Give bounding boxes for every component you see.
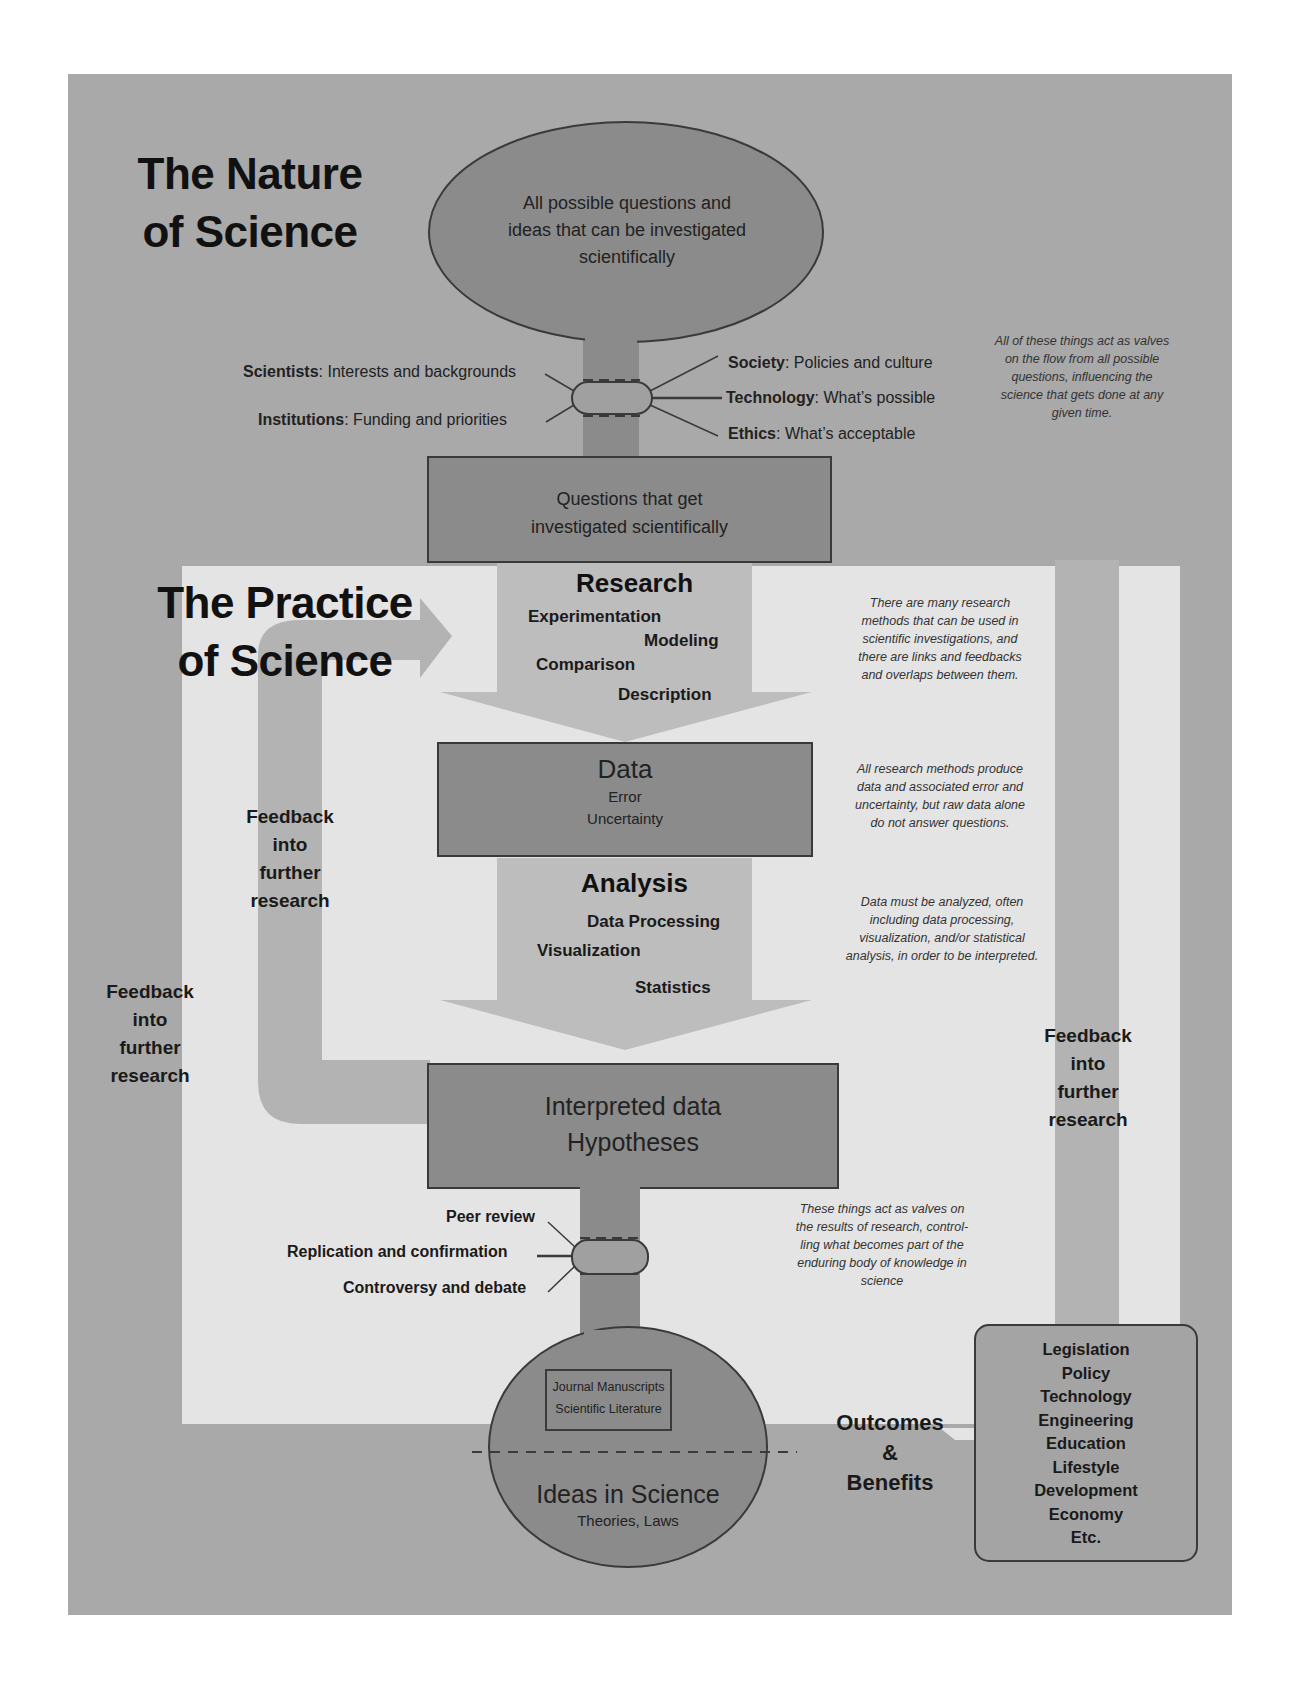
note-line: given time. — [972, 404, 1192, 422]
outcomes-label-line: Benefits — [820, 1468, 960, 1498]
nature-title-line2: of Science — [130, 203, 370, 261]
ideas-title: Ideas in Science — [490, 1478, 766, 1510]
note-line: on the flow from all possible — [972, 350, 1192, 368]
feedback-line: Feedback — [220, 803, 360, 831]
valve-ethics: Ethics: What’s acceptable — [728, 425, 915, 443]
valve-label-text: : What’s possible — [815, 389, 936, 406]
feedback-line: research — [220, 887, 360, 915]
note-line: ling what becomes part of the — [768, 1236, 996, 1254]
research-method: Modeling — [644, 631, 719, 651]
outcome-item: Legislation — [975, 1338, 1197, 1362]
valve-technology: Technology: What’s possible — [726, 389, 935, 407]
data-box: Data Error Uncertainty — [438, 752, 812, 830]
outcome-item: Lifestyle — [975, 1456, 1197, 1480]
analysis-note: Data must be analyzed, often including d… — [826, 893, 1058, 965]
valve-controversy: Controversy and debate — [343, 1279, 526, 1297]
valve-label-bold: Society — [728, 354, 785, 371]
note-line: All research methods produce — [828, 760, 1052, 778]
top-oval-line: ideas that can be investigated — [470, 217, 784, 244]
feedback-line: further — [1018, 1078, 1158, 1106]
nature-title: The Nature of Science — [130, 145, 370, 261]
outcomes-list: Legislation Policy Technology Engineerin… — [975, 1338, 1197, 1550]
feedback-line: research — [80, 1062, 220, 1090]
analysis-method: Data Processing — [587, 912, 720, 932]
valve-peer-review: Peer review — [446, 1208, 535, 1226]
outcome-item: Engineering — [975, 1409, 1197, 1433]
valve-society: Society: Policies and culture — [728, 354, 933, 372]
analysis-method: Statistics — [635, 978, 711, 998]
questions-box-line: investigated scientifically — [428, 513, 831, 541]
interpreted-box: Interpreted data Hypotheses — [428, 1088, 838, 1160]
valve-institutions: Institutions: Funding and priorities — [258, 411, 507, 429]
note-line: All of these things act as valves — [972, 332, 1192, 350]
data-box-item: Error — [438, 786, 812, 808]
lower-valve — [572, 1240, 648, 1274]
note-line: science that gets done at any — [972, 386, 1192, 404]
outcome-item: Development — [975, 1479, 1197, 1503]
note-line: uncertainty, but raw data alone — [828, 796, 1052, 814]
literature-line: Journal Manuscripts — [546, 1376, 671, 1398]
note-line: scientific investigations, and — [828, 630, 1052, 648]
feedback-line: Feedback — [1018, 1022, 1158, 1050]
valve-replication: Replication and confirmation — [287, 1243, 507, 1261]
research-method: Experimentation — [528, 607, 661, 627]
outcomes-label-line: & — [820, 1438, 960, 1468]
data-box-title: Data — [438, 752, 812, 786]
literature-line: Scientific Literature — [546, 1398, 671, 1420]
review-note: These things act as valves on the result… — [768, 1200, 996, 1290]
note-line: including data processing, — [826, 911, 1058, 929]
outcome-item: Education — [975, 1432, 1197, 1456]
feedback-line: into — [1018, 1050, 1158, 1078]
feedback-outer-left-label: Feedback into further research — [80, 978, 220, 1090]
feedback-line: further — [80, 1034, 220, 1062]
outcome-item: Technology — [975, 1385, 1197, 1409]
interpreted-line: Interpreted data — [428, 1088, 838, 1124]
questions-box-line: Questions that get — [428, 485, 831, 513]
top-oval-line: scientifically — [470, 244, 784, 271]
practice-title-line2: of Science — [150, 632, 420, 690]
literature-box: Journal Manuscripts Scientific Literatur… — [546, 1376, 671, 1420]
research-method: Description — [618, 685, 712, 705]
ideas-subtitle: Theories, Laws — [490, 1510, 766, 1532]
outcome-item: Policy — [975, 1362, 1197, 1386]
ideas-in-science: Ideas in Science Theories, Laws — [490, 1478, 766, 1532]
note-line: science — [768, 1272, 996, 1290]
valve-label-text: : Policies and culture — [785, 354, 933, 371]
note-line: There are many research — [828, 594, 1052, 612]
feedback-outer-right-label: Feedback into further research — [1018, 1022, 1158, 1134]
research-heading: Research — [576, 568, 693, 599]
valve-label-bold: Technology — [726, 389, 815, 406]
data-note: All research methods produce data and as… — [828, 760, 1052, 832]
feedback-line: research — [1018, 1106, 1158, 1134]
note-line: do not answer questions. — [828, 814, 1052, 832]
interpreted-line: Hypotheses — [428, 1124, 838, 1160]
note-line: questions, influencing the — [972, 368, 1192, 386]
feedback-inner-label: Feedback into further research — [220, 803, 360, 915]
practice-title: The Practice of Science — [150, 574, 420, 690]
note-line: the results of research, control- — [768, 1218, 996, 1236]
valve-label-bold: Institutions — [258, 411, 344, 428]
research-note: There are many research methods that can… — [828, 594, 1052, 684]
feedback-line: into — [80, 1006, 220, 1034]
note-line: methods that can be used in — [828, 612, 1052, 630]
top-oval-line: All possible questions and — [470, 190, 784, 217]
note-line: Data must be analyzed, often — [826, 893, 1058, 911]
valve-label-text: : What’s acceptable — [776, 425, 915, 442]
note-line: and overlaps between them. — [828, 666, 1052, 684]
outcomes-label-line: Outcomes — [820, 1408, 960, 1438]
analysis-heading: Analysis — [581, 868, 688, 899]
outcome-item: Etc. — [975, 1526, 1197, 1550]
valve-label-text: : Interests and backgrounds — [319, 363, 516, 380]
analysis-method: Visualization — [537, 941, 641, 961]
outcome-item: Economy — [975, 1503, 1197, 1527]
note-line: enduring body of knowledge in — [768, 1254, 996, 1272]
questions-box: Questions that get investigated scientif… — [428, 485, 831, 541]
valve-scientists: Scientists: Interests and backgrounds — [243, 363, 516, 381]
note-line: These things act as valves on — [768, 1200, 996, 1218]
practice-title-line1: The Practice — [150, 574, 420, 632]
note-line: analysis, in order to be interpreted. — [826, 947, 1058, 965]
feedback-line: into — [220, 831, 360, 859]
valve-label-bold: Ethics — [728, 425, 776, 442]
nature-title-line1: The Nature — [130, 145, 370, 203]
valve-label-text: : Funding and priorities — [344, 411, 507, 428]
